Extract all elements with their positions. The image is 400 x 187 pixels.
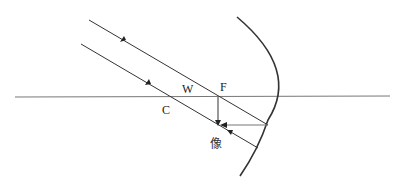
principal-axis [15, 96, 390, 97]
incident-ray-upper [89, 20, 268, 125]
label-W: W [182, 82, 194, 96]
label-C: C [162, 103, 170, 117]
ray-diagram: W F C 像 [0, 0, 400, 187]
label-F: F [220, 80, 227, 94]
label-image: 像 [210, 137, 222, 151]
arrow-icon [220, 122, 227, 128]
